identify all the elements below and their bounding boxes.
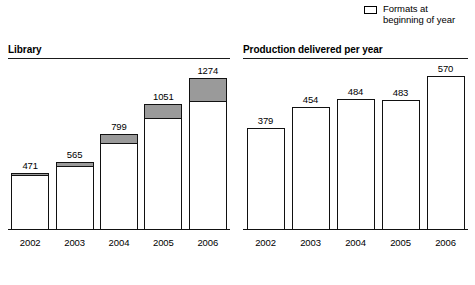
legend-label-beginning-of-year: Formats at beginning of year	[383, 4, 475, 25]
bar-segment-added	[189, 78, 227, 102]
bar-value-label: 1051	[136, 91, 190, 102]
chart-panel-library: Library 471 565 799	[8, 44, 230, 255]
bar-segment-added	[100, 134, 138, 144]
bar-series-library: 471 565 799	[8, 63, 230, 229]
bar-stack	[11, 173, 49, 229]
bar-stack	[337, 99, 375, 229]
chart-legend: during the year Formats at beginning of …	[364, 0, 475, 29]
x-tick-label: 2002	[11, 237, 49, 248]
x-tick-label: 2005	[144, 237, 182, 248]
bar-segment-beginning	[144, 119, 182, 229]
bar-stack	[189, 78, 227, 229]
plot-area-library: 471 565 799	[8, 63, 230, 255]
x-tick-label: 2006	[427, 237, 465, 248]
bar-group-production-2005[interactable]: 483	[382, 63, 420, 229]
bar-value-label: 565	[48, 149, 102, 160]
bar-group-library-2004[interactable]: 799	[100, 63, 138, 229]
x-tick-label: 2003	[292, 237, 330, 248]
bar-group-library-2002[interactable]: 471	[11, 63, 49, 229]
bar-value-label: 570	[419, 63, 473, 74]
bar-value-label: 1274	[181, 65, 235, 76]
bar-series-production: 379 454 484 483	[243, 63, 468, 229]
bar-group-library-2006[interactable]: 1274	[189, 63, 227, 229]
bar-value-label: 483	[374, 87, 428, 98]
bar-stack	[100, 134, 138, 229]
chart-panel-production: Production delivered per year 379 454 48…	[243, 44, 468, 255]
x-tick-label: 2004	[100, 237, 138, 248]
x-tick-label: 2004	[337, 237, 375, 248]
chart-title-library: Library	[8, 44, 230, 58]
x-tick-label: 2005	[382, 237, 420, 248]
bar-value-label: 379	[239, 115, 293, 126]
bar-group-production-2002[interactable]: 379	[247, 63, 285, 229]
legend-item-beginning-of-year: Formats at beginning of year	[364, 4, 475, 25]
chart-title-rule-library	[8, 58, 230, 59]
bar-segment-added	[144, 104, 182, 118]
x-axis-labels-production: 2002 2003 2004 2005 2006	[243, 235, 468, 249]
x-tick-label: 2006	[189, 237, 227, 248]
bar-stack	[247, 128, 285, 229]
x-tick-label: 2003	[56, 237, 94, 248]
bar-group-production-2004[interactable]: 484	[337, 63, 375, 229]
bar-segment	[247, 128, 285, 229]
bar-segment	[292, 107, 330, 229]
bar-group-library-2003[interactable]: 565	[56, 63, 94, 229]
bar-segment	[382, 100, 420, 229]
bar-group-production-2003[interactable]: 454	[292, 63, 330, 229]
x-tick-label: 2002	[247, 237, 285, 248]
chart-title-production: Production delivered per year	[243, 44, 468, 58]
x-axis-line-production	[243, 229, 468, 230]
bar-group-library-2005[interactable]: 1051	[144, 63, 182, 229]
plot-area-production: 379 454 484 483	[243, 63, 468, 255]
bar-segment-beginning	[100, 144, 138, 229]
x-axis-line-library	[8, 229, 230, 230]
bar-group-production-2006[interactable]: 570	[427, 63, 465, 229]
x-axis-labels-library: 2002 2003 2004 2005 2006	[8, 235, 230, 249]
bar-stack	[144, 104, 182, 229]
bar-value-label: 471	[3, 160, 57, 171]
chart-title-rule-production	[243, 58, 468, 59]
legend-swatch-white-icon	[364, 6, 377, 14]
bar-stack	[292, 107, 330, 229]
bar-stack	[56, 162, 94, 229]
bar-segment	[427, 76, 465, 229]
bar-segment-beginning	[11, 176, 49, 229]
bar-value-label: 799	[92, 121, 146, 132]
bar-segment-beginning	[56, 167, 94, 229]
bar-segment	[337, 99, 375, 229]
bar-segment-beginning	[189, 102, 227, 229]
bar-stack	[427, 76, 465, 229]
bar-stack	[382, 100, 420, 229]
